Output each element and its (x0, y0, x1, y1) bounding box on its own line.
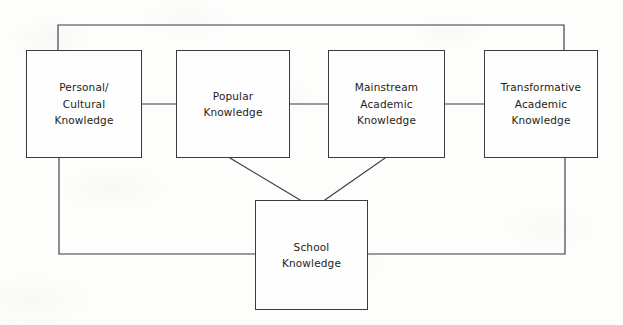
node-popular-knowledge: Popular Knowledge (176, 50, 290, 158)
connector-transformative-to-school-bottom-right-bracket (368, 158, 565, 254)
connector-popular-to-school-diagonal (230, 158, 300, 200)
node-label-line: Knowledge (357, 112, 416, 129)
connector-personal-to-transformative-top-bracket (58, 25, 564, 50)
node-label-line: Personal/ (59, 79, 109, 96)
node-label-line: Transformative (501, 79, 581, 96)
node-transformative-academic-knowledge: Transformative Academic Knowledge (484, 50, 598, 158)
node-label-line: Knowledge (511, 112, 570, 129)
knowledge-diagram: Personal/ Cultural Knowledge Popular Kno… (0, 0, 623, 325)
node-mainstream-academic-knowledge: Mainstream Academic Knowledge (328, 50, 445, 158)
node-label-line: Cultural (63, 96, 106, 113)
node-label-line: Knowledge (54, 112, 113, 129)
node-label-line: Popular (213, 88, 253, 105)
connector-mainstream-to-school-diagonal (325, 158, 385, 200)
node-label-line: Mainstream (355, 79, 418, 96)
node-school-knowledge: School Knowledge (255, 200, 368, 310)
node-personal-cultural-knowledge: Personal/ Cultural Knowledge (26, 50, 142, 158)
node-label-line: Academic (360, 96, 412, 113)
node-label-line: Knowledge (282, 255, 341, 272)
node-label-line: Knowledge (203, 104, 262, 121)
connector-personal-to-school-bottom-left-bracket (59, 158, 255, 254)
node-label-line: School (294, 239, 330, 256)
node-label-line: Academic (515, 96, 567, 113)
